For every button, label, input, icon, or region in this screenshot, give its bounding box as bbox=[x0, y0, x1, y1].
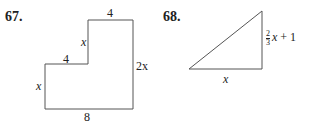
fraction: 2 3 bbox=[266, 30, 270, 47]
label-step: 4 bbox=[63, 53, 69, 65]
right-triangle bbox=[189, 11, 262, 69]
figures bbox=[0, 0, 311, 125]
label-top: 4 bbox=[107, 7, 113, 19]
label-height: 2 3 x + 1 bbox=[266, 30, 296, 47]
problem-67-number: 67. bbox=[5, 9, 23, 25]
l-shape bbox=[45, 20, 133, 109]
fraction-denominator: 3 bbox=[266, 38, 270, 47]
label-bottom: 8 bbox=[84, 111, 90, 123]
height-variable: x bbox=[272, 30, 277, 44]
label-right-text: 2x bbox=[136, 59, 148, 73]
label-lower-left: x bbox=[36, 80, 41, 92]
label-right: 2x bbox=[136, 60, 148, 72]
height-constant: + 1 bbox=[280, 30, 296, 44]
label-upper-left: x bbox=[81, 36, 86, 48]
problem-68-number: 68. bbox=[163, 9, 181, 25]
fraction-numerator: 2 bbox=[266, 30, 270, 38]
label-base: x bbox=[223, 73, 228, 85]
